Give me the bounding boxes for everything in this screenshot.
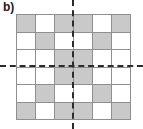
grid-cell-r4-c4 xyxy=(74,68,92,85)
grid-cell-r5-c4 xyxy=(74,85,92,102)
grid-cell-r6-c4 xyxy=(74,103,92,120)
panel-label: b) xyxy=(3,1,14,14)
grid-cell-r2-c1 xyxy=(17,33,35,50)
horizontal-symmetry-axis-line xyxy=(0,65,143,67)
grid-cell-r4-c2 xyxy=(36,68,54,85)
grid-cell-r1-c4 xyxy=(74,15,92,32)
grid-cell-r1-c6 xyxy=(112,15,130,32)
grid-cell-r5-c3 xyxy=(55,85,73,102)
grid-cell-r6-c3 xyxy=(55,103,73,120)
grid-cell-r5-c1 xyxy=(17,85,35,102)
figure-panel: b) xyxy=(0,0,143,129)
grid-cell-r6-c1 xyxy=(17,103,35,120)
grid-cell-r1-c3 xyxy=(55,15,73,32)
grid-cell-r5-c2 xyxy=(36,85,54,102)
grid-cell-r1-c5 xyxy=(93,15,111,32)
grid-cell-r6-c5 xyxy=(93,103,111,120)
grid-cell-r1-c1 xyxy=(17,15,35,32)
grid-cell-r4-c1 xyxy=(17,68,35,85)
grid-cell-r5-c5 xyxy=(93,85,111,102)
grid-cell-r2-c2 xyxy=(36,33,54,50)
grid-cell-r4-c6 xyxy=(112,68,130,85)
grid-cell-r2-c5 xyxy=(93,33,111,50)
grid-cell-r2-c4 xyxy=(74,33,92,50)
grid-cell-r6-c6 xyxy=(112,103,130,120)
grid-cell-r1-c2 xyxy=(36,15,54,32)
grid-cell-r6-c2 xyxy=(36,103,54,120)
grid-cell-r5-c6 xyxy=(112,85,130,102)
grid-cell-r4-c3 xyxy=(55,68,73,85)
grid-cell-r4-c5 xyxy=(93,68,111,85)
grid-cell-r2-c3 xyxy=(55,33,73,50)
grid-cell-r2-c6 xyxy=(112,33,130,50)
